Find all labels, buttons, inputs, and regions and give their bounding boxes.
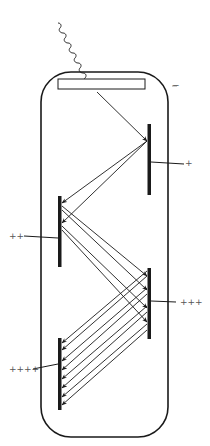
cathode-label: −	[172, 80, 180, 90]
dynode-1-label: +	[185, 158, 193, 168]
electron-paths	[62, 92, 147, 405]
dynode-2	[58, 196, 62, 267]
dynode-1	[148, 124, 152, 195]
dynode-2-label: ++	[9, 231, 24, 241]
dynode-3-label: +++	[180, 297, 203, 307]
photocathode	[58, 79, 145, 89]
dynode-4	[58, 338, 62, 410]
dynode-4-label: ++++	[9, 364, 39, 374]
photon-wave-icon	[58, 23, 88, 83]
dynode-3-lead	[151, 301, 176, 302]
photomultiplier-diagram	[0, 0, 210, 446]
dynode-3	[148, 268, 152, 339]
